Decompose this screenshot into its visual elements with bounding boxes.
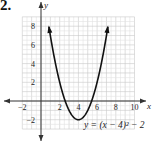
- y-axis-up-arrow-icon: [39, 2, 44, 8]
- x-tick-label: −2: [18, 103, 27, 112]
- equation-label: y = (x − 4)² − 2: [83, 120, 145, 131]
- x-tick-label: 4: [76, 103, 80, 112]
- y-tick-label: 2: [31, 78, 35, 87]
- problem-number: 2.: [0, 0, 11, 14]
- plot-area: xy−2246810−22468y = (x − 4)² − 2: [0, 0, 153, 144]
- curve-left-arrow-icon: [47, 25, 52, 33]
- y-tick-label: 8: [31, 22, 35, 31]
- x-tick-label: 10: [131, 103, 139, 112]
- x-tick-label: 8: [114, 103, 118, 112]
- x-axis-label: x: [146, 101, 151, 111]
- parabola-graph: 2. xy−2246810−22468y = (x − 4)² − 2: [0, 0, 153, 144]
- y-tick-label: −2: [26, 116, 35, 125]
- y-axis-down-arrow-icon: [39, 135, 44, 141]
- y-tick-label: 6: [31, 41, 35, 50]
- x-axis-right-arrow-icon: [140, 99, 146, 104]
- y-tick-label: 4: [31, 60, 35, 69]
- grid: [22, 17, 134, 129]
- x-tick-label: 6: [95, 103, 99, 112]
- x-axis-left-arrow-icon: [4, 99, 10, 104]
- x-tick-label: 2: [58, 103, 62, 112]
- y-axis-label: y: [43, 0, 48, 10]
- curve-right-arrow-icon: [104, 25, 109, 33]
